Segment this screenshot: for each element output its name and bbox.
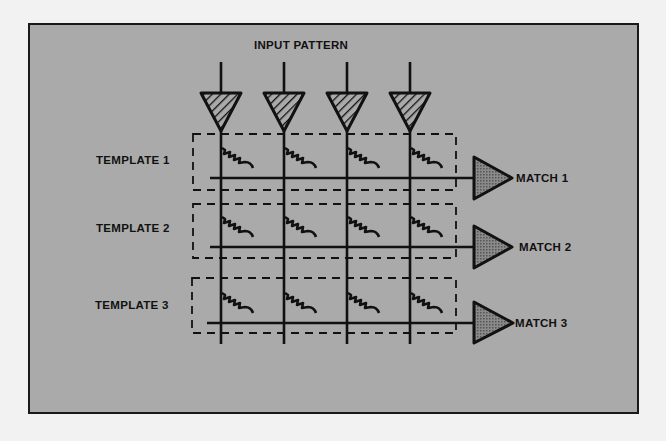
template-row-3 [192,278,513,343]
input-pattern-label: INPUT PATTERN [254,39,348,51]
template-3-label: TEMPLATE 3 [95,299,169,311]
match-amplifier-icon [474,157,512,199]
buffer-triangle-icon [201,93,241,131]
match-1-label: MATCH 1 [516,172,569,184]
template-row-2 [193,204,512,268]
match-amplifier-icon [474,302,513,343]
input-buffers [221,62,410,344]
template-1-label: TEMPLATE 1 [96,154,170,166]
match-3-label: MATCH 3 [515,317,567,329]
input-buffer-triangles [201,93,430,131]
template-2-label: TEMPLATE 2 [96,222,170,234]
buffer-triangle-icon [327,93,367,131]
pattern-matching-diagram: INPUT PATTERN TEMPLATE 1 MATCH 1 TEMPLAT… [0,0,666,441]
template-row-1 [193,134,512,199]
match-2-label: MATCH 2 [519,241,571,253]
match-amplifier-icon [474,226,512,268]
buffer-triangle-icon [390,93,430,131]
buffer-triangle-icon [264,93,304,131]
